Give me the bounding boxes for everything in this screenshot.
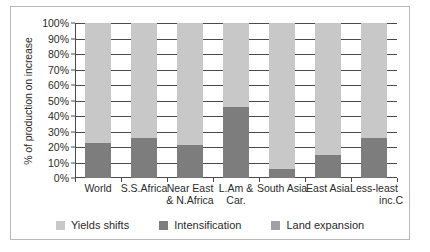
bar-segment[interactable] [177, 23, 203, 145]
stacked-bar[interactable] [223, 23, 249, 178]
bar-group[interactable] [305, 23, 351, 178]
y-axis-tick-label: 40% [48, 110, 69, 122]
chart-container: % of production on increase 0%10%20%30%4… [10, 6, 410, 240]
stacked-bar[interactable] [177, 23, 203, 178]
legend-label: Land expansion [286, 219, 364, 231]
bar-segment[interactable] [361, 138, 387, 178]
bar-segment[interactable] [131, 23, 157, 138]
y-axis-tick-label: 50% [48, 95, 69, 107]
x-axis-tick-label-line1: L.Am & [219, 182, 253, 194]
x-axis-tick-label-line2: inc.C [345, 194, 403, 206]
bar-segment[interactable] [223, 23, 249, 107]
bar-group[interactable] [75, 23, 121, 178]
x-axis-tick-label-line1: Less-least [350, 182, 398, 194]
x-axis-tick-label-line1: World [84, 182, 111, 194]
x-axis-tick-label-line2: Car. [207, 194, 265, 206]
stacked-bar[interactable] [85, 23, 111, 178]
legend-swatch-icon [271, 221, 280, 230]
bar-segment[interactable] [269, 169, 295, 178]
bar-segment[interactable] [223, 107, 249, 178]
bar-segment[interactable] [315, 155, 341, 178]
bar-group[interactable] [351, 23, 397, 178]
bar-segment[interactable] [361, 23, 387, 138]
y-axis-tick-label: 90% [48, 33, 69, 45]
legend-swatch-icon [56, 221, 65, 230]
y-axis-tick-label: 20% [48, 141, 69, 153]
y-axis-tick-label: 10% [48, 157, 69, 169]
bar-group[interactable] [259, 23, 305, 178]
legend-label: Intensification [174, 219, 241, 231]
bar-group[interactable] [213, 23, 259, 178]
x-axis-tick-label-line1: East Asia [306, 182, 350, 194]
stacked-bar[interactable] [269, 23, 295, 178]
x-axis-tick-labels: WorldS.S.AfricaNear East& N.AfricaL.Am &… [75, 182, 397, 216]
y-axis-tick-labels: 0%10%20%30%40%50%60%70%80%90%100% [29, 23, 73, 178]
legend-item[interactable]: Yields shifts [56, 219, 129, 231]
stacked-bar[interactable] [361, 23, 387, 178]
bar-segment[interactable] [131, 138, 157, 178]
stacked-bar[interactable] [131, 23, 157, 178]
legend-label: Yields shifts [71, 219, 129, 231]
y-axis-tick-label: 60% [48, 79, 69, 91]
bar-group[interactable] [121, 23, 167, 178]
chart-legend: Yields shiftsIntensificationLand expansi… [11, 215, 409, 235]
bar-segment[interactable] [85, 143, 111, 178]
y-axis-tick-label: 70% [48, 64, 69, 76]
plot-area [75, 23, 397, 178]
bar-segment[interactable] [315, 23, 341, 155]
y-axis-tick-label: 80% [48, 48, 69, 60]
bar-segment[interactable] [269, 23, 295, 169]
bar-series-group [75, 23, 397, 178]
y-axis-tick-label: 100% [42, 17, 69, 29]
x-axis-tick-label: Less-leastinc.C [345, 182, 403, 206]
legend-item[interactable]: Intensification [159, 219, 241, 231]
y-axis-tick-label: 0% [54, 172, 69, 184]
legend-item[interactable]: Land expansion [271, 219, 364, 231]
bar-group[interactable] [167, 23, 213, 178]
bar-segment[interactable] [85, 23, 111, 143]
bar-segment[interactable] [177, 145, 203, 178]
stacked-bar[interactable] [315, 23, 341, 178]
legend-swatch-icon [159, 221, 168, 230]
y-axis-tick-label: 30% [48, 126, 69, 138]
